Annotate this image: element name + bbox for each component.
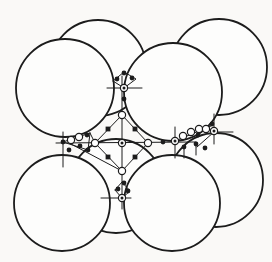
open-site [179, 132, 186, 139]
square-site [133, 127, 138, 132]
open-site [144, 139, 151, 146]
crystal-structure-figure-page [0, 0, 272, 262]
open-site [195, 125, 202, 132]
open-site [75, 133, 82, 140]
large-sphere-front-3 [14, 155, 110, 251]
dot-site [196, 133, 201, 138]
dot-site [85, 133, 90, 138]
crystal-structure-diagram [0, 0, 272, 262]
dot-site [122, 181, 127, 186]
square-site [106, 155, 111, 160]
large-sphere-front-1 [16, 39, 114, 137]
dot-site [210, 122, 215, 127]
open-site [118, 111, 125, 118]
open-site [187, 128, 194, 135]
dot-site [116, 187, 121, 192]
ring-site-center-dot [121, 142, 124, 145]
dot-site [78, 144, 83, 149]
large-sphere-front-4 [124, 155, 220, 251]
ring-site-center-dot [213, 130, 216, 133]
dot-site [161, 140, 166, 145]
ring-site-center-dot [174, 140, 177, 143]
square-site [106, 127, 111, 132]
dot-site [122, 71, 127, 76]
dot-site [130, 76, 135, 81]
dot-site [115, 77, 120, 82]
dot-site [61, 140, 66, 145]
open-site [202, 125, 209, 132]
dot-site [182, 145, 187, 150]
ring-site-center-dot [123, 87, 126, 90]
square-site [133, 155, 138, 160]
open-site [67, 136, 74, 143]
dot-site [122, 97, 127, 102]
ring-site-center-dot [121, 197, 124, 200]
dot-site [86, 148, 91, 153]
dot-site [194, 142, 199, 147]
dot-site [126, 189, 131, 194]
dot-site [203, 146, 208, 151]
dot-site [67, 148, 72, 153]
open-site [91, 139, 98, 146]
open-site [118, 167, 125, 174]
